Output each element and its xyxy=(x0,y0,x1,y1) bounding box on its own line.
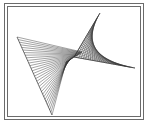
string-art-figure xyxy=(0,0,148,122)
frame-inner xyxy=(8,7,141,117)
string-line xyxy=(19,42,81,52)
left-envelope xyxy=(17,37,82,115)
right-envelope xyxy=(74,13,135,68)
string-line xyxy=(35,57,75,76)
string-line xyxy=(31,56,76,68)
frame-outer xyxy=(5,4,144,120)
string-line xyxy=(17,37,82,52)
